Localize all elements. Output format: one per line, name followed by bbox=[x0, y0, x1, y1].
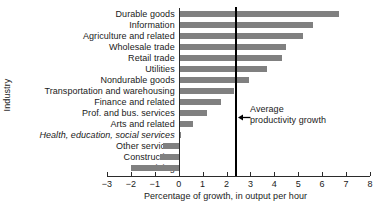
x-axis-tick bbox=[298, 172, 299, 176]
x-axis-tick bbox=[131, 172, 132, 176]
category-label: Transportation and warehousing bbox=[0, 86, 175, 97]
x-axis-tick bbox=[179, 172, 180, 176]
bar bbox=[179, 33, 303, 39]
category-label: Agriculture and related bbox=[0, 31, 175, 42]
bar bbox=[179, 110, 208, 116]
category-label: Nondurable goods bbox=[0, 75, 175, 86]
x-axis-tick-label: 4 bbox=[264, 179, 284, 189]
x-axis-tick-label: 5 bbox=[288, 179, 308, 189]
annotation-line-1: Average bbox=[250, 104, 326, 115]
x-axis-tick bbox=[203, 172, 204, 176]
x-axis-tick bbox=[322, 172, 323, 176]
x-axis-tick-label: 7 bbox=[336, 179, 356, 189]
x-axis-tick bbox=[274, 172, 275, 176]
bar bbox=[179, 22, 313, 28]
bar bbox=[163, 143, 179, 149]
category-label: Prof. and bus. services bbox=[0, 108, 175, 119]
average-growth-annotation: Average productivity growth bbox=[250, 104, 326, 126]
x-axis-tick bbox=[155, 172, 156, 176]
category-label: Utilities bbox=[0, 64, 175, 75]
bar bbox=[131, 165, 179, 171]
zero-axis-line bbox=[179, 8, 180, 176]
category-label: Durable goods bbox=[0, 9, 175, 20]
category-label: Information bbox=[0, 20, 175, 31]
x-axis-tick-label: 8 bbox=[360, 179, 380, 189]
x-axis-tick-label: 0 bbox=[169, 179, 189, 189]
bar bbox=[179, 11, 339, 17]
annotation-arrow-icon bbox=[238, 114, 251, 121]
chart-figure: Industry Durable goodsInformationAgricul… bbox=[0, 0, 381, 215]
x-axis-tick bbox=[227, 172, 228, 176]
x-axis-tick-label: −1 bbox=[145, 179, 165, 189]
x-axis-line bbox=[107, 176, 370, 177]
bar bbox=[179, 66, 267, 72]
bar bbox=[179, 77, 250, 83]
x-axis-tick bbox=[370, 172, 371, 176]
x-axis-tick-label: 2 bbox=[217, 179, 237, 189]
annotation-line-2: productivity growth bbox=[250, 115, 326, 126]
x-axis-tick-label: −2 bbox=[121, 179, 141, 189]
category-label: Finance and related bbox=[0, 97, 175, 108]
bar bbox=[160, 154, 179, 160]
category-label: Arts and related bbox=[0, 119, 175, 130]
bar bbox=[179, 121, 193, 127]
x-axis-tick bbox=[107, 172, 108, 176]
x-axis-title: Percentage of growth, in output per hour bbox=[0, 191, 381, 202]
bar bbox=[179, 55, 282, 61]
bar bbox=[179, 99, 221, 105]
x-axis-tick-label: 3 bbox=[240, 179, 260, 189]
average-growth-line bbox=[235, 7, 237, 176]
bar bbox=[179, 44, 287, 50]
x-axis-tick bbox=[346, 172, 347, 176]
x-axis-tick bbox=[250, 172, 251, 176]
category-label: Wholesale trade bbox=[0, 42, 175, 53]
category-label: Construction bbox=[0, 152, 175, 163]
category-label: Retail trade bbox=[0, 53, 175, 64]
category-label: Health, education, social services bbox=[0, 130, 175, 141]
bar bbox=[179, 88, 234, 94]
x-axis-tick-label: 1 bbox=[193, 179, 213, 189]
category-label: Other services bbox=[0, 141, 175, 152]
x-axis-tick-label: −3 bbox=[97, 179, 117, 189]
x-axis-tick-label: 6 bbox=[312, 179, 332, 189]
